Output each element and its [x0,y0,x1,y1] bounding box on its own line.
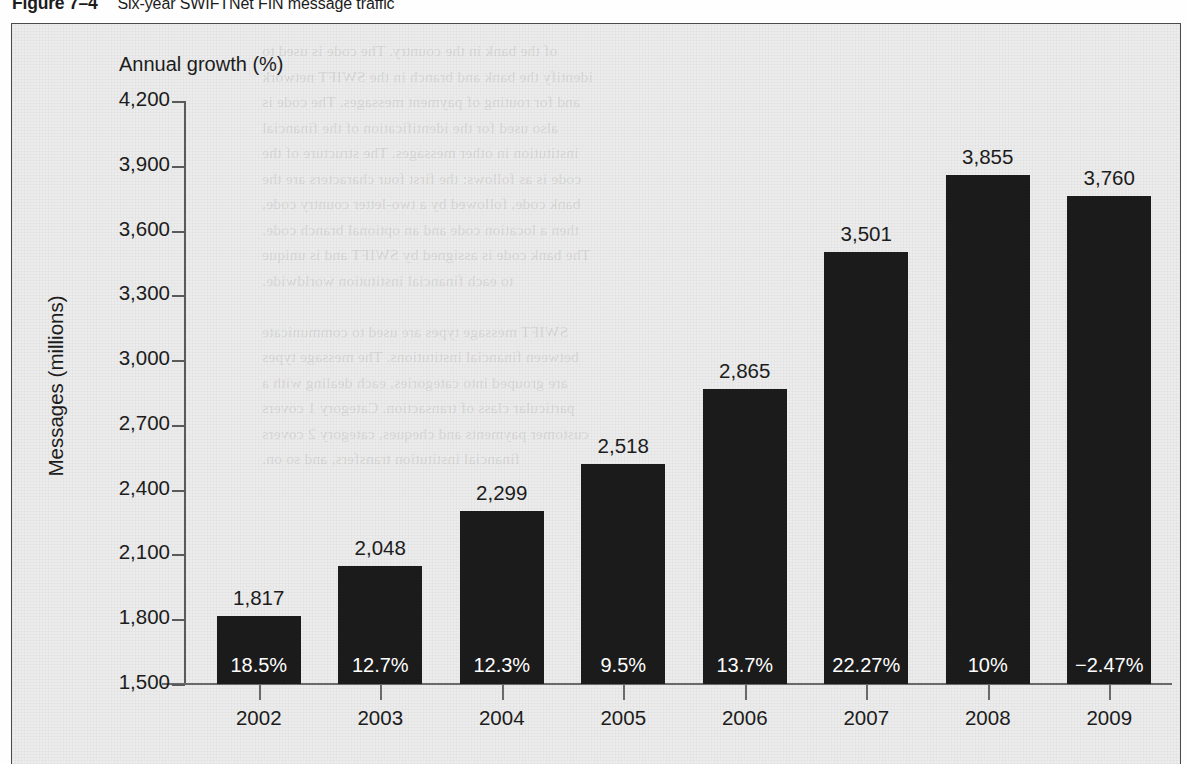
figure-title: Six-year SWIFTNet FIN message traffic [118,0,395,12]
y-axis-tick-label: 3,000 [119,346,170,370]
figure-frame: of the bank in the country. The code is … [11,23,1181,764]
y-axis-line [184,101,186,684]
y-axis-tick-mark [172,684,185,686]
annual-growth-axis-note: Annual growth (%) [119,53,284,76]
y-axis-tick-label: 3,600 [119,217,170,241]
y-axis-tick-label: 1,800 [119,605,170,629]
x-axis-tick-label: 2003 [310,706,450,730]
bar-value-label: 2,299 [432,481,572,505]
y-axis-tick-mark [172,490,185,492]
y-axis-tick-mark [172,619,185,621]
x-axis-tick-label: 2006 [675,706,815,730]
x-axis-tick-label: 2004 [432,706,572,730]
y-axis-tick-mark [172,425,185,427]
y-axis-tick-mark [172,360,185,362]
y-axis-tick-label: 2,400 [119,476,170,500]
y-axis-tick-label: 1,500 [119,670,170,694]
y-axis-tick-mark [172,295,185,297]
x-axis-tick-label: 2008 [918,706,1058,730]
x-axis-tick-mark [866,685,868,700]
bar-growth-label: 13.7% [675,654,815,677]
y-axis-tick-label: 2,700 [119,411,170,435]
x-axis-tick-label: 2007 [796,706,936,730]
bar-value-label: 2,518 [553,434,693,458]
x-axis-tick-mark [988,685,990,700]
y-axis-title: Messages (millions) [44,266,68,506]
y-axis-tick-label: 4,200 [119,87,170,111]
y-axis-tick-label: 3,300 [119,281,170,305]
bar[interactable] [581,464,665,684]
bar[interactable] [824,252,908,684]
bar-growth-label: −2.47% [1039,654,1179,677]
x-axis-tick-label: 2009 [1039,706,1179,730]
y-axis-tick-label: 2,100 [119,540,170,564]
figure-page: Figure 7–4Six-year SWIFTNet FIN message … [0,0,1188,764]
bar-growth-label: 18.5% [189,654,329,677]
x-axis-tick-mark [502,685,504,700]
figure-number: Figure 7–4 [12,0,98,13]
bar[interactable] [946,175,1030,684]
bar-growth-label: 22.27% [796,654,936,677]
y-axis-tick-mark [172,231,185,233]
bar[interactable] [703,389,787,684]
bar-value-label: 1,817 [189,586,329,610]
x-axis-tick-mark [745,685,747,700]
bar-growth-label: 12.7% [310,654,450,677]
x-axis-tick-mark [380,685,382,700]
x-axis-tick-label: 2005 [553,706,693,730]
bar-growth-label: 12.3% [432,654,572,677]
bar-value-label: 3,760 [1039,166,1179,190]
x-axis-tick-mark [1109,685,1111,700]
bar-value-label: 3,501 [796,222,936,246]
bar-value-label: 2,048 [310,536,450,560]
x-axis-tick-mark [623,685,625,700]
figure-caption: Figure 7–4Six-year SWIFTNet FIN message … [12,0,395,15]
bar-growth-label: 10% [918,654,1058,677]
bar-chart: Annual growth (%) Messages (millions) 4,… [12,24,1181,764]
y-axis-tick-mark [172,101,185,103]
bar[interactable] [1067,196,1151,684]
bar-value-label: 3,855 [918,145,1058,169]
bar-value-label: 2,865 [675,359,815,383]
y-axis-tick-label: 3,900 [119,152,170,176]
y-axis-tick-mark [172,554,185,556]
x-axis-tick-label: 2002 [189,706,329,730]
x-axis-tick-mark [259,685,261,700]
bar-growth-label: 9.5% [553,654,693,677]
y-axis-tick-mark [172,166,185,168]
